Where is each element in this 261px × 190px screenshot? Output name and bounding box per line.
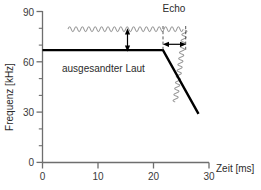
y-tick-label-0: 0 xyxy=(28,157,34,168)
x-tick-label-0: 0 xyxy=(40,171,46,182)
y-tick-label-90: 90 xyxy=(23,7,35,18)
y-axis-title: Frequenz [kHz] xyxy=(4,63,15,131)
y-tick-label-30: 30 xyxy=(23,107,35,118)
echo-label: Echo xyxy=(163,3,186,14)
x-tick-label-20: 20 xyxy=(148,171,160,182)
x-axis-title: Zeit [ms] xyxy=(216,163,255,174)
echolocation-frequency-chart: 90 60 30 0 0 10 20 30 Frequenz [kHz] Zei… xyxy=(0,0,261,190)
chart-figure: 90 60 30 0 0 10 20 30 Frequenz [kHz] Zei… xyxy=(0,0,261,190)
x-tick-label-30: 30 xyxy=(203,171,215,182)
y-tick-label-60: 60 xyxy=(23,57,35,68)
emitted-sound-label: ausgesandter Laut xyxy=(62,63,145,74)
x-tick-label-10: 10 xyxy=(92,171,104,182)
